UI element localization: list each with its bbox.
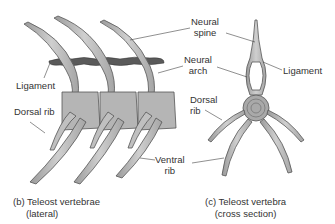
caption-line: (cross section) [205, 208, 286, 220]
label-neural-arch: Neural arch [184, 54, 212, 76]
label-line: Dorsal [190, 94, 217, 105]
caption-line: (c) Teleost vertebra [205, 196, 286, 208]
label-line: rib [190, 105, 217, 116]
label-line: rib [155, 165, 185, 176]
label-ventral-rib: Ventral rib [155, 154, 185, 176]
caption-panel-c: (c) Teleost vertebra (cross section) [205, 196, 286, 220]
label-ligament-cross: Ligament [283, 65, 322, 76]
label-ligament-lateral: Ligament [16, 80, 55, 91]
label-line: Neural [184, 54, 212, 65]
caption-line: (b) Teleost vertebrae [13, 196, 100, 208]
label-line: Ventral [155, 154, 185, 165]
cross-section-vertebra [208, 20, 304, 176]
label-neural-spine: Neural spine [191, 16, 219, 38]
label-line: arch [184, 65, 212, 76]
label-line: Neural [191, 16, 219, 27]
label-dorsal-rib-lateral: Dorsal rib [14, 106, 55, 117]
caption-line: (lateral) [13, 208, 100, 220]
label-dorsal-rib-cross: Dorsal rib [190, 94, 217, 116]
label-line: spine [191, 27, 219, 38]
caption-panel-b: (b) Teleost vertebrae (lateral) [13, 196, 100, 220]
